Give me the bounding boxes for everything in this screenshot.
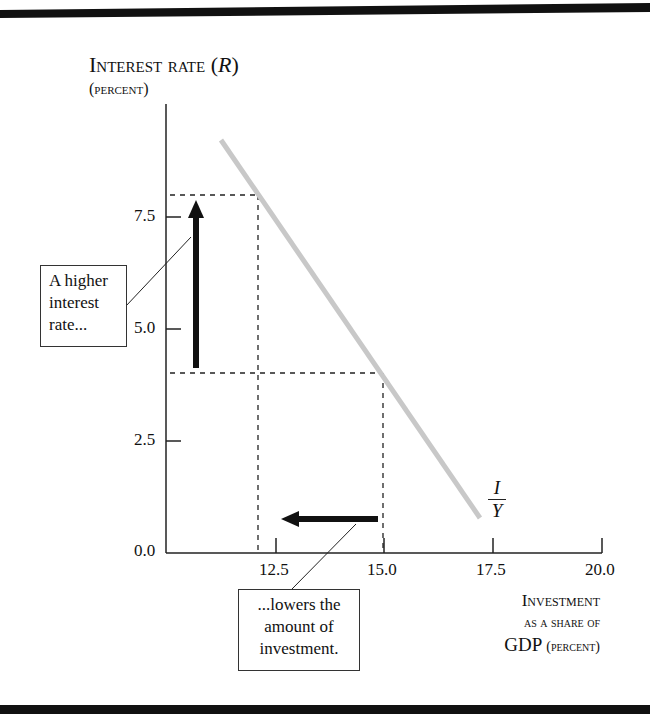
curve-label: I Y — [488, 478, 506, 521]
reference-lines — [170, 195, 383, 553]
callout-line-1 — [126, 237, 191, 306]
x-axis-title: Investment as a share of GDP (percent) — [420, 590, 600, 658]
annotation-box-higher-rate: A higher interest rate... — [40, 265, 127, 347]
up-arrow-head — [188, 200, 204, 218]
left-arrow-head — [281, 511, 299, 527]
annotation-box-lowers-investment: ...lowers the amount of investment. — [238, 589, 360, 671]
y-axis-subtitle: (percent) — [89, 80, 149, 98]
y-tick-label: 2.5 — [134, 430, 155, 450]
x-tick-label: 15.0 — [367, 560, 397, 580]
x-tick-label: 20.0 — [585, 560, 615, 580]
y-tick-label: 7.5 — [134, 206, 155, 226]
x-tick-label: 17.5 — [476, 560, 506, 580]
investment-curve — [221, 140, 480, 518]
x-tick-label: 12.5 — [259, 560, 289, 580]
y-axis-title: Interest rate (R) — [89, 52, 239, 78]
bottom-border — [0, 705, 650, 714]
y-tick-label: 0.0 — [134, 541, 155, 561]
top-border — [0, 3, 650, 18]
y-tick-label: 5.0 — [134, 318, 155, 338]
callout-line-2 — [292, 524, 356, 589]
